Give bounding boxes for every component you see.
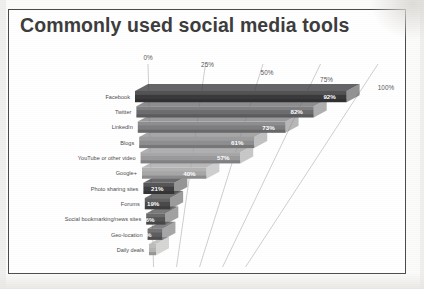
bar-value-label: 73% <box>262 124 275 131</box>
plot-area: 0%25%50%75%100%Daily deals14%Geo-locatio… <box>8 9 406 274</box>
x-axis-tick-label: 50% <box>261 69 274 76</box>
bar-value-label: 57% <box>217 154 230 161</box>
bar-value-label: 16% <box>142 216 155 223</box>
category-label: Blogs <box>120 140 134 146</box>
category-label: Twitter <box>115 109 132 115</box>
category-label: Geo-location <box>111 232 143 238</box>
bar-chart-svg: 0%25%50%75%100%Daily deals14%Geo-locatio… <box>8 9 406 274</box>
category-label: Facebook <box>105 94 130 100</box>
chart-figure: Commonly used social media tools 0%25%50… <box>0 0 424 289</box>
x-axis-tick-label: 0% <box>143 54 153 61</box>
bar-value-label: 92% <box>323 93 336 100</box>
category-label: Google+ <box>116 170 137 176</box>
category-label: Forums <box>121 201 140 207</box>
category-label: YouTube or other video <box>78 155 136 161</box>
category-label: Photo sharing sites <box>91 186 139 192</box>
bar-value-label: 40% <box>183 170 196 177</box>
bar-value-label: 21% <box>151 185 164 192</box>
bar-value-label: 61% <box>231 139 244 146</box>
category-label: Daily deals <box>117 247 145 253</box>
bar-value-label: 19% <box>147 200 160 207</box>
bar-value-label: 82% <box>290 108 303 115</box>
scan-smudge-bottom <box>0 273 424 289</box>
x-axis-tick-label: 100% <box>378 84 395 91</box>
category-label: Social bookmarking/news sites <box>65 216 142 222</box>
category-label: LinkedIn <box>112 124 133 130</box>
x-axis-tick-label: 75% <box>320 76 333 83</box>
x-axis-tick-label: 25% <box>201 61 214 68</box>
